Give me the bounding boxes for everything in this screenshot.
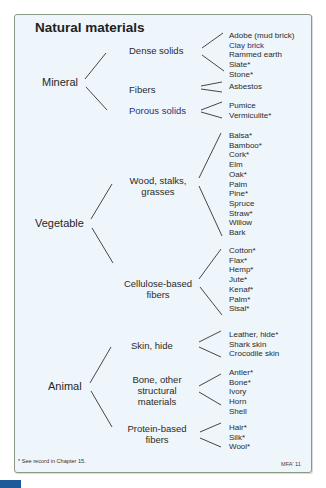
leaf-list-skin: Leather, hide* Shark skin Crocodile skin — [229, 330, 279, 359]
leaf-item: Rammed earth — [229, 50, 294, 60]
leaf-item: Stone* — [229, 70, 294, 80]
leaf-item: Shark skin — [229, 340, 279, 350]
leaf-item: Palm — [229, 180, 262, 190]
leaf-item: Willow — [229, 218, 262, 228]
group-porous-solids: Porous solids — [129, 105, 186, 116]
leaf-item: Palm* — [229, 295, 256, 305]
leaf-item: Bark — [229, 228, 262, 238]
page-accent-bar — [0, 480, 21, 488]
group-protein-fibers: Protein-based fibers — [123, 423, 191, 445]
category-vegetable: Vegetable — [35, 217, 84, 229]
credit: MFA' 11 — [281, 461, 301, 467]
leaf-item: Balsa* — [229, 131, 262, 141]
leaf-list-cellulose: Cotton* Flax* Hemp* Jute* Kenaf* Palm* S… — [229, 246, 256, 314]
leaf-item: Crocodile skin — [229, 349, 279, 359]
leaf-item: Horn — [229, 397, 253, 407]
group-dense-solids: Dense solids — [129, 45, 183, 56]
leaf-list-porous-solids: Pumice Vermiculite* — [229, 101, 271, 120]
leaf-list-wood: Balsa* Bamboo* Cork* Elm Oak* Palm Pine*… — [229, 131, 262, 238]
leaf-item: Asbestos — [229, 82, 262, 92]
leaf-item: Cork* — [229, 150, 262, 160]
leaf-item: Clay brick — [229, 41, 294, 51]
leaf-item: Ivory — [229, 387, 253, 397]
leaf-list-bone: Antler* Bone* Ivory Horn Shell — [229, 368, 253, 417]
leaf-item: Shell — [229, 407, 253, 417]
group-skin-hide: Skin, hide — [131, 340, 173, 351]
leaf-item: Spruce — [229, 199, 262, 209]
leaf-item: Pine* — [229, 189, 262, 199]
leaf-item: Oak* — [229, 170, 262, 180]
group-cellulose-based-fibers: Cellulose-based fibers — [120, 278, 196, 300]
leaf-item: Hemp* — [229, 265, 256, 275]
leaf-item: Jute* — [229, 275, 256, 285]
footnote: * See record in Chapter 15. — [18, 458, 86, 464]
leaf-item: Flax* — [229, 256, 256, 266]
leaf-item: Slate* — [229, 60, 294, 70]
leaf-list-dense-solids: Adobe (mud brick) Clay brick Rammed eart… — [229, 31, 294, 80]
leaf-item: Leather, hide* — [229, 330, 279, 340]
group-bone-structural: Bone, other structural materials — [124, 374, 190, 407]
leaf-item: Kenaf* — [229, 285, 256, 295]
group-fibers: Fibers — [129, 84, 155, 95]
leaf-item: Sisal* — [229, 304, 256, 314]
group-wood-stalks-grasses: Wood, stalks, grasses — [128, 175, 188, 197]
leaf-item: Antler* — [229, 368, 253, 378]
category-animal: Animal — [48, 380, 82, 392]
leaf-item: Pumice — [229, 101, 271, 111]
leaf-item: Cotton* — [229, 246, 256, 256]
category-mineral: Mineral — [42, 76, 78, 88]
leaf-item: Wool* — [229, 442, 250, 452]
leaf-item: Adobe (mud brick) — [229, 31, 294, 41]
leaf-item: Elm — [229, 160, 262, 170]
leaf-item: Silk* — [229, 433, 250, 443]
leaf-list-fibers: Asbestos — [229, 82, 262, 92]
leaf-item: Bone* — [229, 378, 253, 388]
leaf-item: Straw* — [229, 209, 262, 219]
leaf-item: Bamboo* — [229, 141, 262, 151]
leaf-list-protein: Hair* Silk* Wool* — [229, 423, 250, 452]
leaf-item: Vermiculite* — [229, 111, 271, 121]
leaf-item: Hair* — [229, 423, 250, 433]
